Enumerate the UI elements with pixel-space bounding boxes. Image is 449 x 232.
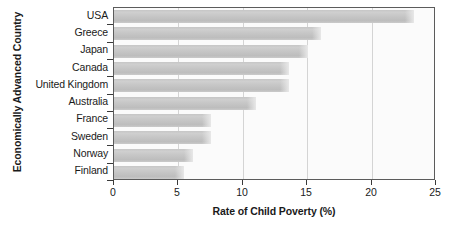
y-tick-mark xyxy=(107,163,113,164)
y-tick-mark xyxy=(107,94,113,95)
x-tick-mark xyxy=(177,180,178,185)
bar-highlight xyxy=(202,131,211,144)
bar xyxy=(114,62,289,75)
y-tick-mark xyxy=(107,42,113,43)
y-tick-label: Norway xyxy=(20,147,108,159)
x-tick-mark xyxy=(435,180,436,185)
y-tick-mark xyxy=(107,145,113,146)
x-tick-label: 10 xyxy=(222,186,262,198)
bar-highlight xyxy=(280,62,289,75)
x-tick-label: 25 xyxy=(415,186,449,198)
bar xyxy=(114,149,193,162)
y-tick-label: Japan xyxy=(20,43,108,55)
gridline-20 xyxy=(372,8,373,179)
y-tick-label: Canada xyxy=(20,61,108,73)
x-tick-mark xyxy=(371,180,372,185)
x-tick-mark xyxy=(113,180,114,185)
y-tick-mark xyxy=(107,59,113,60)
bar xyxy=(114,10,414,23)
x-tick-label: 5 xyxy=(157,186,197,198)
child-poverty-bar-chart: Economically Advanced Country USAGreeceJ… xyxy=(0,0,449,232)
bar-highlight xyxy=(299,45,308,58)
bar xyxy=(114,97,256,110)
x-tick-label: 15 xyxy=(286,186,326,198)
x-tick-mark xyxy=(242,180,243,185)
bar xyxy=(114,114,211,127)
bar xyxy=(114,131,211,144)
y-tick-mark xyxy=(107,111,113,112)
y-tick-label: USA xyxy=(20,9,108,21)
bar xyxy=(114,79,289,92)
bar-highlight xyxy=(175,166,184,179)
x-tick-label: 20 xyxy=(351,186,391,198)
x-tick-label: 0 xyxy=(93,186,133,198)
bar xyxy=(114,45,308,58)
bar-highlight xyxy=(202,114,211,127)
bar-highlight xyxy=(280,79,289,92)
x-axis-title: Rate of Child Poverty (%) xyxy=(113,205,435,217)
bar xyxy=(114,166,184,179)
y-tick-label: Finland xyxy=(20,164,108,176)
bar xyxy=(114,27,321,40)
y-tick-label: Sweden xyxy=(20,130,108,142)
bar-highlight xyxy=(247,97,256,110)
y-tick-label: France xyxy=(20,112,108,124)
bar-highlight xyxy=(312,27,321,40)
y-axis-tick-labels: USAGreeceJapanCanadaUnited KingdomAustra… xyxy=(20,7,108,180)
plot-area xyxy=(113,7,435,180)
y-tick-label: Greece xyxy=(20,26,108,38)
y-tick-label: Australia xyxy=(20,95,108,107)
y-tick-mark xyxy=(107,24,113,25)
y-tick-label: United Kingdom xyxy=(20,78,108,90)
x-tick-mark xyxy=(306,180,307,185)
y-tick-mark xyxy=(107,76,113,77)
bar-highlight xyxy=(405,10,414,23)
bar-highlight xyxy=(184,149,193,162)
y-tick-mark xyxy=(107,128,113,129)
